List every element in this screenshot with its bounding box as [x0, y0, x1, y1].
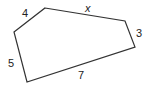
side-label-top: x — [84, 2, 91, 14]
side-label-right: 3 — [136, 27, 142, 39]
side-label-upper-left: 4 — [22, 7, 28, 19]
side-label-bottom: 7 — [78, 69, 84, 81]
pentagon-shape — [14, 8, 135, 82]
pentagon-diagram: x 3 7 5 4 — [0, 0, 144, 88]
side-label-left: 5 — [8, 57, 14, 69]
